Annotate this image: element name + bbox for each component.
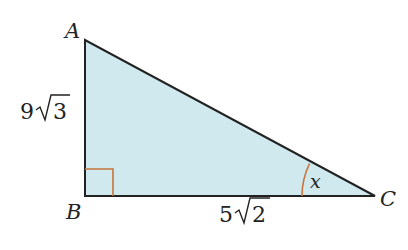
side-bc-radicand: 2 — [252, 202, 266, 227]
side-bc-coefficient: 5 — [219, 202, 233, 227]
triangle-abc — [85, 40, 375, 196]
triangle-diagram: A B C x 9 3 5 2 — [0, 0, 408, 250]
vertex-label-a: A — [63, 19, 80, 43]
side-ab-radicand: 3 — [53, 99, 67, 124]
angle-label-x: x — [310, 170, 321, 192]
vertex-label-b: B — [65, 200, 81, 224]
side-ab-coefficient: 9 — [20, 99, 34, 124]
side-label-ab: 9 3 — [20, 95, 70, 124]
vertex-label-c: C — [380, 187, 396, 211]
side-label-bc: 5 2 — [219, 198, 270, 227]
